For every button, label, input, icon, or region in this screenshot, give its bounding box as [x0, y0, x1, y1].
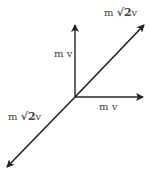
diagonal-down-label-prefix: m — [8, 111, 21, 122]
diagonal-up-arrow — [75, 25, 144, 97]
vector-arrows — [0, 0, 150, 174]
diagonal-down-label-suffix: v — [36, 111, 42, 122]
diagonal-up-label-prefix: m — [104, 7, 117, 18]
diagonal-down-arrow — [7, 97, 75, 167]
diagonal-down-label: m √2v — [8, 110, 41, 123]
sqrt-two-symbol: √2 — [117, 6, 132, 19]
diagonal-up-label: m √2v — [104, 6, 137, 19]
vertical-label: m v — [54, 48, 72, 59]
diagonal-up-label-suffix: v — [132, 7, 138, 18]
vector-diagram: m v m v m √2v m √2v — [0, 0, 150, 174]
sqrt-two-symbol: √2 — [21, 110, 36, 123]
horizontal-label: m v — [99, 101, 117, 112]
